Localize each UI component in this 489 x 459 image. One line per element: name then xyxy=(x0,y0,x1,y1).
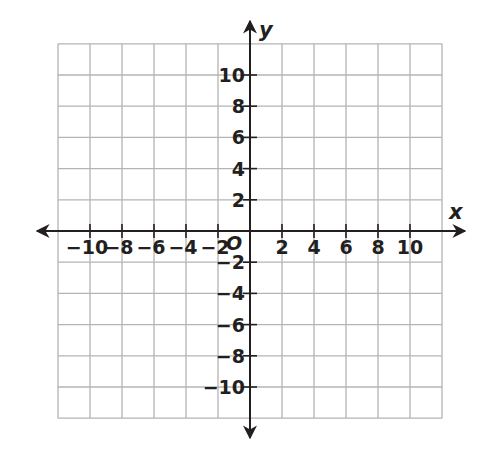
x-tick-label: 2 xyxy=(275,236,288,258)
y-tick-label: 8 xyxy=(232,95,245,117)
x-tick-label: 10 xyxy=(397,236,423,258)
origin-label: O xyxy=(226,232,242,254)
x-tick-label: −4 xyxy=(168,236,197,258)
axes xyxy=(37,21,465,438)
x-tick-label: 8 xyxy=(371,236,384,258)
x-tick-label: 6 xyxy=(339,236,352,258)
y-tick-label: −6 xyxy=(216,314,245,336)
x-tick-label: −10 xyxy=(66,236,108,258)
y-axis-label: y xyxy=(259,18,274,42)
coordinate-plane: −10−8−6−4−2246810−10−8−6−4−2246810 x y O xyxy=(0,0,489,459)
x-tick-label: −6 xyxy=(136,236,165,258)
y-tick-label: 2 xyxy=(232,189,245,211)
y-tick-label: −10 xyxy=(203,376,245,398)
x-tick-label: −8 xyxy=(104,236,133,258)
y-tick-label: −4 xyxy=(216,282,245,304)
x-axis-label: x xyxy=(448,200,464,224)
x-tick-label: 4 xyxy=(307,236,320,258)
y-tick-label: 4 xyxy=(232,158,245,180)
y-tick-label: −2 xyxy=(216,251,245,273)
y-tick-label: −8 xyxy=(216,345,245,367)
y-tick-label: 10 xyxy=(219,64,245,86)
y-tick-label: 6 xyxy=(232,126,245,148)
